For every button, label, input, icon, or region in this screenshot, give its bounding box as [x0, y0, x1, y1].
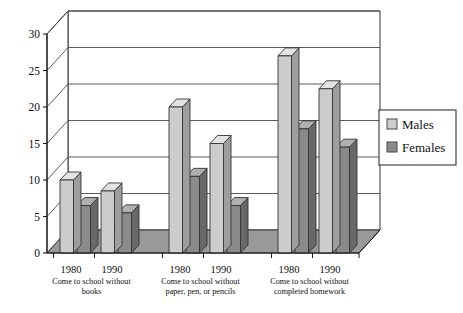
legend-label-females: Females	[402, 140, 445, 155]
males-bar-g2-y0-face	[278, 56, 292, 253]
x-year-label-g0-y0: 1980	[61, 264, 82, 275]
x-category-label-g0-line1: books	[82, 287, 102, 296]
males-bar-g0-y1	[101, 183, 122, 253]
legend: MalesFemales	[379, 110, 456, 165]
males-bar-g2-y1-face	[319, 89, 333, 253]
females-bar-g0-y0-side	[91, 198, 99, 253]
males-bar-g1-y0-side	[183, 99, 191, 253]
males-bar-g0-y1-face	[101, 191, 115, 253]
males-bar-g0-y0	[60, 172, 81, 253]
males-bar-g0-y0-face	[60, 180, 74, 253]
legend-swatch-males	[387, 119, 397, 129]
y-tick-label-0: 0	[34, 247, 40, 259]
legend-swatch-females	[387, 142, 397, 152]
x-category-label-g0-line0: Come to school without	[52, 277, 131, 286]
males-bar-g1-y0-face	[169, 107, 183, 253]
males-bar-g1-y1-face	[210, 144, 224, 254]
y-tick-label-5: 5	[34, 211, 40, 223]
x-year-label-g0-y1: 1990	[102, 264, 123, 275]
y-tick-label-25: 25	[29, 65, 41, 77]
y-tick-label-20: 20	[29, 101, 41, 113]
males-bar-g1-y0	[169, 99, 190, 253]
chart-canvas: 05101520253019801990Come to school witho…	[0, 0, 463, 313]
bar-chart: 05101520253019801990Come to school witho…	[0, 0, 463, 313]
y-tick-label-15: 15	[29, 138, 41, 150]
males-bar-g0-y0-side	[74, 172, 82, 253]
females-bar-g1-y0-side	[200, 168, 208, 253]
males-bar-g0-y1-side	[115, 183, 123, 253]
males-bar-g2-y1-side	[333, 81, 341, 253]
x-category-label-g1-line1: paper, pen, or pencils	[166, 287, 236, 296]
legend-label-males: Males	[402, 117, 434, 132]
x-year-label-g2-y1: 1990	[320, 264, 341, 275]
females-bar-g1-y1-side	[241, 198, 249, 253]
females-bar-g2-y1-side	[350, 139, 358, 253]
x-category-label-g2-line1: completed homework	[274, 287, 346, 296]
x-year-label-g1-y1: 1990	[211, 264, 232, 275]
x-year-label-g1-y0: 1980	[170, 264, 191, 275]
females-bar-g2-y0-side	[309, 121, 317, 253]
x-year-label-g2-y0: 1980	[279, 264, 300, 275]
x-category-label-g1-line0: Come to school without	[161, 277, 240, 286]
x-category-label-g2-line0: Come to school without	[270, 277, 349, 286]
males-bar-g1-y1-side	[224, 136, 232, 254]
y-tick-label-30: 30	[29, 28, 41, 40]
males-bar-g2-y0	[278, 48, 299, 253]
males-bar-g1-y1	[210, 136, 231, 254]
males-bar-g2-y0-side	[292, 48, 300, 253]
y-tick-label-10: 10	[29, 174, 41, 186]
males-bar-g2-y1	[319, 81, 340, 253]
